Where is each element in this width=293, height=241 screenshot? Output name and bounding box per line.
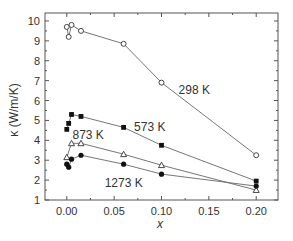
series-label: 573 K bbox=[134, 120, 165, 134]
data-point bbox=[66, 121, 71, 126]
series-layer bbox=[64, 22, 259, 192]
data-point bbox=[64, 24, 69, 29]
data-point bbox=[66, 165, 71, 170]
y-tick-label: 1 bbox=[34, 194, 40, 206]
data-point bbox=[69, 22, 74, 27]
x-tick-label: 0.20 bbox=[246, 205, 267, 217]
data-point bbox=[254, 183, 259, 188]
data-point bbox=[64, 154, 70, 159]
data-point bbox=[78, 153, 83, 158]
series-label: 298 K bbox=[179, 83, 210, 97]
y-tick-label: 5 bbox=[34, 114, 40, 126]
data-point bbox=[159, 80, 164, 85]
data-point bbox=[254, 153, 259, 158]
x-axis-title: x bbox=[156, 217, 164, 231]
data-point bbox=[69, 157, 74, 162]
y-tick-label: 2 bbox=[34, 174, 40, 186]
data-point bbox=[254, 179, 259, 184]
chart: 0.000.050.100.150.2012345678910 298 K573… bbox=[0, 0, 293, 241]
y-tick-label: 4 bbox=[34, 134, 40, 146]
y-tick-label: 8 bbox=[34, 55, 40, 67]
data-point bbox=[121, 162, 126, 167]
series-label: 873 K bbox=[72, 128, 103, 142]
y-axis-title: κ (W/m/K) bbox=[7, 83, 21, 136]
data-point bbox=[159, 143, 164, 148]
y-tick-label: 3 bbox=[34, 154, 40, 166]
y-tick-label: 9 bbox=[34, 35, 40, 47]
data-point bbox=[66, 34, 71, 39]
x-tick-label: 0.10 bbox=[151, 205, 172, 217]
data-point bbox=[121, 41, 126, 46]
x-tick-label: 0.05 bbox=[103, 205, 124, 217]
data-point bbox=[64, 127, 69, 132]
series-873-k bbox=[64, 140, 259, 192]
data-point bbox=[69, 112, 74, 117]
x-tick-label: 0.15 bbox=[198, 205, 219, 217]
x-tick-label: 0.00 bbox=[56, 205, 77, 217]
y-tick-label: 10 bbox=[28, 15, 40, 27]
series-label: 1273 K bbox=[105, 176, 143, 190]
y-tick-label: 6 bbox=[34, 95, 40, 107]
series-labels: 298 K573 K873 K1273 K bbox=[72, 83, 209, 191]
data-point bbox=[79, 114, 84, 119]
data-point bbox=[121, 125, 126, 130]
y-tick-label: 7 bbox=[34, 75, 40, 87]
data-point bbox=[159, 172, 164, 177]
data-point bbox=[78, 28, 83, 33]
